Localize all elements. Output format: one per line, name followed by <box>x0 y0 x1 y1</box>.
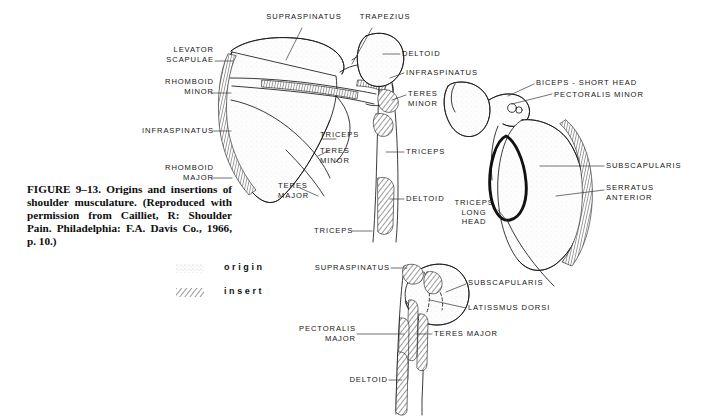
anterior-scapula <box>444 82 592 286</box>
label-infraspinatus-right: INFRASPINATUS <box>406 68 478 78</box>
label-biceps-short-head: BICEPS - SHORT HEAD <box>536 78 637 88</box>
insert-swatch-icon <box>176 288 204 297</box>
label-latissmus-dorsi: LATISSMUS DORSI <box>468 303 550 313</box>
label-triceps-long-head: TRICEPS LONG HEAD <box>446 198 502 227</box>
label-teres-minor-mid: TERES MINOR <box>320 146 350 165</box>
origin-swatch-icon <box>176 264 204 273</box>
label-teres-minor-right: TERES MINOR <box>408 89 438 108</box>
legend-label-insert: insert <box>224 286 264 296</box>
label-trapezius: TRAPEZIUS <box>350 12 420 22</box>
label-supraspinatus-bottom: SUPRASPINATUS <box>310 263 390 273</box>
label-rhomboid-major: RHOMBOID MAJOR <box>136 163 214 182</box>
label-subscapularis-bottom: SUBSCAPULARIS <box>468 278 543 288</box>
label-serratus-anterior: SERRATUS ANTERIOR <box>606 183 654 202</box>
label-triceps-humerus: TRICEPS <box>406 147 445 157</box>
label-rhomboid-minor: RHOMBOID MINOR <box>136 77 214 96</box>
figure-caption: FIGURE 9–13. Origins and insertions of s… <box>27 183 232 248</box>
label-triceps-upper: TRICEPS <box>320 130 359 140</box>
label-pectoralis-minor: PECTORALIS MINOR <box>554 90 644 100</box>
anterior-humerus <box>396 264 469 415</box>
label-pectoralis-major: PECTORALIS MAJOR <box>290 324 356 343</box>
label-subscapularis-right: SUBSCAPULARIS <box>606 161 681 171</box>
posterior-humerus <box>357 33 403 242</box>
label-deltoid-upper: DELTOID <box>402 49 441 59</box>
label-levator-scapulae: LEVATOR SCAPULAE <box>136 45 214 64</box>
label-infraspinatus-left: INFRASPINATUS <box>126 126 214 136</box>
label-triceps-lower: TRICEPS <box>314 226 353 236</box>
label-deltoid-bottom: DELTOID <box>330 375 388 385</box>
label-teres-major: TERES MAJOR <box>278 181 309 200</box>
legend-label-origin: origin <box>224 262 265 272</box>
label-supraspinatus-top: SUPRASPINATUS <box>258 12 350 22</box>
label-teres-major-bottom: TERES MAJOR <box>434 329 498 339</box>
label-deltoid-lower: DELTOID <box>406 194 445 204</box>
anatomy-figure: SUPRASPINATUS TRAPEZIUS LEVATOR SCAPULAE… <box>0 0 701 416</box>
